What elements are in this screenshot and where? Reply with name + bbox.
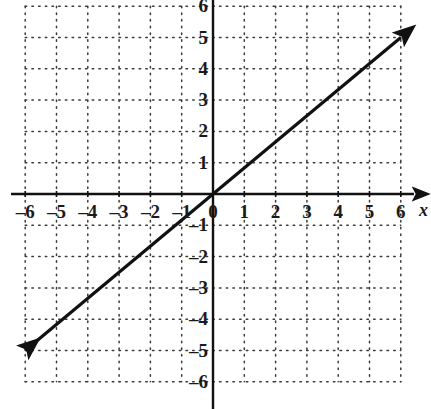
x-tick-label: –5 (42, 202, 72, 221)
y-tick-label: 6 (199, 0, 209, 15)
y-tick-label: –6 (189, 372, 208, 391)
x-axis-name-label: x (419, 201, 428, 219)
y-tick-label: 4 (199, 59, 209, 78)
x-tick-label: –4 (73, 202, 103, 221)
y-tick-label: 3 (199, 90, 209, 109)
x-tick-label: 3 (292, 202, 322, 221)
y-tick-label: –3 (189, 278, 208, 297)
x-tick-label: 2 (261, 202, 291, 221)
x-tick-label: 5 (355, 202, 385, 221)
y-tick-label: –4 (189, 309, 208, 328)
y-tick-label: –1 (189, 215, 208, 234)
x-tick-label: 1 (229, 202, 259, 221)
x-tick-label: –3 (104, 202, 134, 221)
x-tick-label: –6 (10, 202, 40, 221)
y-tick-label: –2 (189, 247, 208, 266)
y-tick-label: 1 (199, 153, 209, 172)
y-tick-label: –5 (189, 341, 208, 360)
y-tick-label: 5 (199, 28, 209, 47)
x-tick-label: 6 (386, 202, 416, 221)
y-tick-label: 2 (199, 121, 209, 140)
x-tick-label: –2 (135, 202, 165, 221)
x-tick-label: 4 (323, 202, 353, 221)
graph-canvas: –6–5–4–3–2–10123456 –6–5–4–3–2–1123456 x (0, 0, 431, 409)
